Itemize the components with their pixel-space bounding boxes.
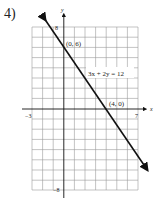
graph: y x 8 −8 −3 7 (0, 6) (4, 0) 3x + 2y = 12: [0, 0, 162, 203]
x-axis-label: x: [149, 106, 153, 112]
x-min-label: −3: [25, 113, 31, 119]
equation-line: [44, 18, 146, 168]
point-label-0-6: (0, 6): [66, 40, 82, 48]
point-label-4-0: (4, 0): [109, 100, 125, 108]
grid: [32, 27, 138, 190]
y-axis-label: y: [60, 7, 64, 13]
equation-label: 3x + 2y = 12: [88, 70, 124, 78]
x-max-label: 7: [135, 113, 138, 119]
y-max-label: 8: [55, 25, 58, 31]
y-min-label: −8: [53, 187, 59, 193]
